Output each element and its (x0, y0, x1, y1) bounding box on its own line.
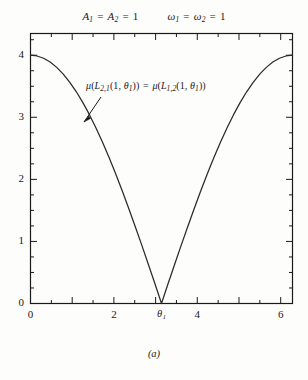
y-tick-label: 1 (8, 234, 24, 246)
x-axis-variable-label: θ₁ (149, 308, 175, 319)
plot-area (0, 0, 308, 380)
y-tick-label: 4 (8, 48, 24, 60)
x-tick-label: 0 (18, 308, 44, 320)
figure-container: A1 = A2 = 1 ω1 = ω2 = 1 μ(L2,1(1, θ1)) =… (0, 0, 308, 380)
x-tick-label: 2 (101, 308, 127, 320)
y-tick-label: 0 (8, 296, 24, 308)
x-tick-label: 4 (184, 308, 210, 320)
curve-annotation: μ(L2,1(1, θ1)) = μ(L1,2(1, θ1)) (86, 80, 206, 93)
y-tick-label: 2 (8, 172, 24, 184)
x-tick-label: 6 (268, 308, 294, 320)
axes-frame (31, 34, 293, 304)
y-tick-label: 3 (8, 110, 24, 122)
axis-ticks (31, 34, 293, 304)
figure-caption: (a) (0, 348, 308, 359)
